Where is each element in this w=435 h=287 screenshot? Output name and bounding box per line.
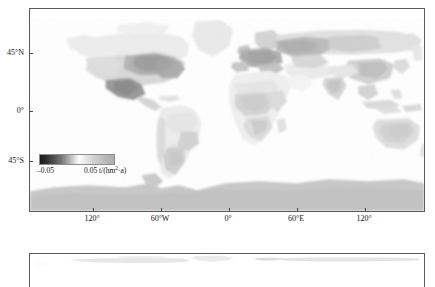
colorbar-unit: t/(hm: [99, 166, 115, 175]
ytick-0: [29, 53, 33, 54]
colorbar-max-value: 0.05: [84, 166, 97, 175]
xtick-0: [93, 208, 94, 212]
colorbar-unit-tail: ·a): [118, 166, 126, 175]
xaxis-label-120e: 120°: [356, 214, 371, 223]
panel-a-map: [30, 9, 424, 211]
panel-b-map: [30, 254, 424, 287]
yaxis-label-0: 0°: [17, 106, 24, 115]
yaxis-label-45n: 45°N: [7, 48, 24, 57]
ytick-1: [29, 111, 33, 112]
xtick-4: [365, 208, 366, 212]
world-map-svg-b: [30, 254, 424, 287]
world-map-svg: [30, 9, 424, 211]
panel-a: (a): [29, 8, 425, 212]
colorbar-max-label: 0.05 t/(hm2·a): [84, 166, 126, 175]
ytick-2: [29, 161, 33, 162]
xtick-1: [161, 208, 162, 212]
panel-b: (b): [29, 253, 425, 287]
xtick-3: [297, 208, 298, 212]
xaxis-label-60e: 60°E: [288, 214, 304, 223]
yaxis-label-45s: 45°S: [8, 156, 24, 165]
xtick-2: [229, 208, 230, 212]
xaxis-label-0: 0°: [224, 214, 231, 223]
colorbar: –0.05 0.05 t/(hm2·a): [39, 154, 179, 178]
xaxis-label-60w: 60°W: [151, 214, 170, 223]
colorbar-gradient: [39, 154, 115, 165]
colorbar-min-label: –0.05: [37, 166, 54, 175]
xaxis-label-120w: 120°: [84, 214, 99, 223]
colorbar-labels: –0.05 0.05 t/(hm2·a): [39, 166, 179, 178]
